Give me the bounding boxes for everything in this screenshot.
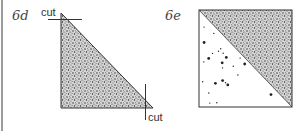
dot [225, 82, 226, 83]
dot [243, 63, 246, 66]
dot [213, 33, 214, 34]
dot [203, 26, 204, 27]
dot [221, 61, 224, 64]
dot [208, 92, 209, 93]
dot [203, 61, 204, 62]
dot [222, 67, 223, 68]
dot [225, 56, 228, 59]
dot [207, 57, 210, 60]
dot [237, 74, 238, 75]
dot [212, 53, 213, 54]
dot [223, 53, 224, 54]
figure-label-6d: 6d [12, 8, 29, 23]
dot [239, 57, 240, 58]
figure-6d: 6d cut cut [12, 6, 163, 123]
dot [220, 48, 221, 49]
dot [221, 79, 224, 82]
figure-label-6e: 6e [165, 8, 181, 23]
dot [214, 82, 217, 85]
dot [226, 84, 229, 87]
dot [218, 51, 219, 52]
dot [203, 41, 206, 44]
cut-label-top: cut [41, 6, 56, 18]
quilt-diagram: 6d cut cut 6e [0, 0, 306, 131]
dot [270, 93, 273, 96]
dot [233, 66, 234, 67]
figure-6e: 6e [165, 8, 292, 107]
dot [216, 102, 217, 103]
cut-label-bottom: cut [148, 111, 163, 123]
triangle-6d [61, 13, 153, 108]
dot [209, 102, 210, 103]
dot [202, 81, 203, 82]
